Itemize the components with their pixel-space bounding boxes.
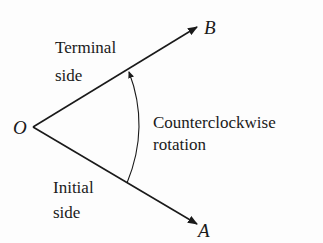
initial-side-label-line2: side: [53, 203, 80, 222]
angle-diagram: O B A Terminal side Initial side Counter…: [0, 0, 323, 243]
initial-side-label-line1: Initial: [53, 178, 94, 197]
rotation-arc: [127, 72, 139, 183]
terminal-side-label-line1: Terminal: [55, 38, 116, 57]
rotation-label-line1: Counterclockwise: [153, 113, 276, 132]
terminal-side-label-line2: side: [55, 66, 82, 85]
vertex-label-o: O: [13, 117, 27, 138]
rotation-label-line2: rotation: [153, 135, 206, 154]
point-label-a: A: [196, 220, 210, 241]
point-label-b: B: [204, 17, 216, 38]
